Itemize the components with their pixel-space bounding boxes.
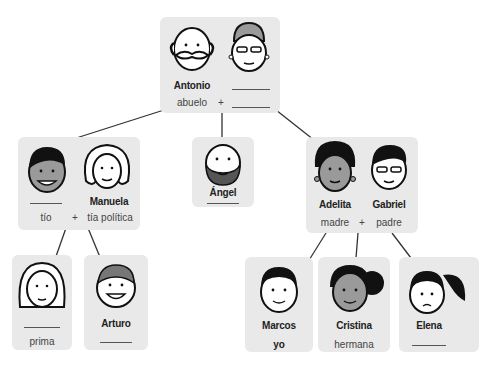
angel-relation-blank <box>207 203 239 204</box>
boy-freckles-face-icon <box>90 261 142 311</box>
boy-face-icon <box>253 263 305 315</box>
gabriel-name: Gabriel <box>364 199 414 210</box>
antonio-name: Antonio <box>166 80 218 91</box>
angel-card: Ángel <box>192 137 254 207</box>
elena-name: Elena <box>399 320 459 331</box>
marcos-name: Marcos <box>245 320 313 331</box>
bearded-man-face-icon <box>198 141 248 187</box>
cristina-name: Cristina <box>318 320 390 331</box>
cristina-card: Cristina hermana <box>318 257 390 352</box>
girl-long-hair-face-icon <box>16 259 68 315</box>
grandfather-face-icon <box>166 21 218 75</box>
aunt-relation: tía política <box>80 212 140 223</box>
father-face-icon <box>364 141 414 193</box>
uncle-aunt-card: Manuela tío + tía política <box>18 137 140 230</box>
uncle-name-blank <box>30 203 62 204</box>
arturo-relation-blank <box>100 342 132 343</box>
grandmother-relation-blank <box>232 107 270 108</box>
marcos-relation: yo <box>245 339 313 350</box>
girl-ponytail-face-icon <box>403 263 475 319</box>
grandmother-name-blank <box>232 89 270 90</box>
elena-card: Elena <box>399 257 479 352</box>
angel-name: Ángel <box>192 187 254 198</box>
arturo-card: Arturo <box>84 255 148 350</box>
plus-sign: + <box>218 97 224 108</box>
mother-face-icon <box>310 139 360 195</box>
grandparents-card: Antonio abuelo + <box>160 17 280 113</box>
uncle-relation: tío <box>30 212 62 223</box>
marcos-card: Marcos yo <box>245 257 313 352</box>
mother-relation: madre <box>310 217 360 228</box>
parents-card: Adelita Gabriel madre + padre <box>306 137 418 233</box>
prima-relation: prima <box>12 336 72 347</box>
elena-relation-blank <box>412 345 446 346</box>
prima-name-blank <box>24 327 60 328</box>
cristina-relation: hermana <box>318 339 390 350</box>
manuela-name: Manuela <box>82 196 136 207</box>
plus-sign: + <box>72 212 78 223</box>
adelita-name: Adelita <box>310 199 360 210</box>
father-relation: padre <box>364 217 414 228</box>
uncle-face-icon <box>22 143 72 195</box>
aunt-face-icon <box>80 141 134 197</box>
girl-dark-face-icon <box>324 261 386 315</box>
arturo-name: Arturo <box>84 318 148 329</box>
prima-card: prima <box>12 255 72 350</box>
antonio-relation: abuelo <box>166 97 218 108</box>
grandmother-face-icon <box>224 19 274 75</box>
